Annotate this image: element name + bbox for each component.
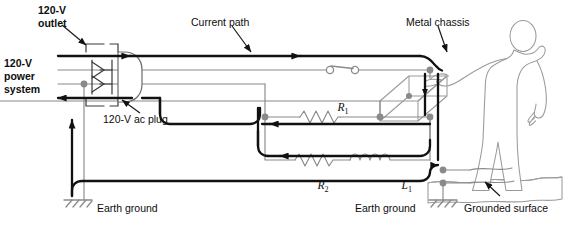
r2-subscript: 2 [325, 185, 329, 194]
earth-ground-label-left: Earth ground [97, 202, 158, 215]
r1-label: R1 [326, 88, 349, 131]
ac-plug-symbol [118, 52, 142, 102]
r2-symbol: R [318, 179, 325, 191]
r2-label: R2 [306, 166, 329, 209]
outlet-label-line1: 120-V [38, 4, 66, 17]
power-system-label-line3: system [4, 83, 40, 96]
current-path-label: Current path [191, 16, 249, 29]
current-path-group [58, 56, 442, 196]
circuit-diagram-svg [0, 0, 564, 234]
grounded-surface-label: Grounded surface [464, 202, 548, 215]
r1-subscript: 1 [345, 107, 349, 116]
ground-symbol-left [64, 200, 92, 207]
r1-symbol: R [338, 101, 345, 113]
figure-canvas: 120-V outlet 120-V power system 120-V ac… [0, 0, 564, 234]
grounded-surface-shape [428, 177, 562, 203]
outlet-label-line2: outlet [38, 17, 67, 30]
switch-open-symbol[interactable] [326, 66, 358, 74]
power-system-label-line1: 120-V [4, 57, 32, 70]
l1-subscript: 1 [408, 185, 412, 194]
outlet-symbol [86, 44, 118, 106]
leader-lines [62, 25, 500, 196]
l1-label: L1 [390, 166, 412, 209]
person-figure [424, 21, 546, 191]
metal-chassis-label: Metal chassis [406, 16, 470, 29]
power-system-label-line2: power [4, 70, 35, 83]
ac-plug-label: 120-V ac plug [103, 113, 168, 126]
